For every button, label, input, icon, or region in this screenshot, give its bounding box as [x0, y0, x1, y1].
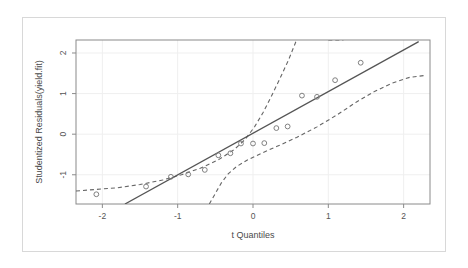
y-tick-label: 1 [58, 91, 68, 96]
data-point [333, 78, 338, 83]
reference-line-stroke [125, 42, 419, 204]
axis-ticks [72, 53, 404, 208]
data-point [216, 153, 221, 158]
y-tick-label: 2 [58, 50, 68, 55]
y-axis-title: Studentized Residuals(yield.fit) [34, 60, 44, 184]
y-tick-label: 0 [58, 132, 68, 137]
y-tick-label: -1 [58, 171, 68, 179]
x-tick-label: 1 [326, 211, 331, 221]
data-point [262, 141, 267, 146]
x-tick-label: 0 [251, 211, 256, 221]
screenshot-root: -2-1012-1012 t Quantiles Studentized Res… [0, 0, 468, 268]
data-point [239, 141, 244, 146]
x-tick-label: -2 [99, 211, 107, 221]
data-point [274, 126, 279, 131]
reference-line [125, 42, 419, 204]
data-point [285, 124, 290, 129]
confidence-band-line [76, 42, 296, 191]
data-point [202, 168, 207, 173]
tick-labels: -2-1012-1012 [58, 50, 406, 221]
data-point [144, 184, 149, 189]
confidence-bands [76, 40, 426, 204]
data-point [94, 192, 99, 197]
x-axis-title: t Quantiles [231, 230, 275, 240]
x-tick-label: -1 [174, 211, 182, 221]
data-point [358, 60, 363, 65]
data-points [94, 60, 363, 196]
x-tick-label: 2 [401, 211, 406, 221]
qq-plot: -2-1012-1012 t Quantiles Studentized Res… [0, 0, 468, 268]
